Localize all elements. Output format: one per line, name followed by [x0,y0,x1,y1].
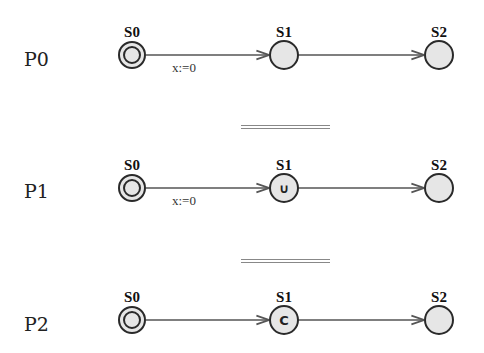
state-label: S2 [431,157,447,173]
state-s2 [425,41,453,69]
automata-diagram: P0 x:=0 S0 S1 S2 P1 x:=0 S0 ∪ S1 S [0,0,484,353]
state-s0-initial [119,42,145,68]
edge-label: x:=0 [172,193,196,208]
state-label: S2 [431,24,447,40]
process-label: P2 [24,313,49,335]
state-s0-initial [119,175,145,201]
committed-marker-icon: C [279,313,289,328]
urgent-marker-icon: ∪ [279,181,290,196]
state-s2 [425,174,453,202]
state-label: S0 [124,24,140,40]
process-label: P1 [24,180,49,202]
state-label: S1 [276,24,292,40]
state-label: S2 [431,289,447,305]
state-label: S1 [276,157,292,173]
edge-label: x:=0 [172,60,196,75]
process-label: P0 [24,48,49,70]
state-label: S0 [124,157,140,173]
state-label: S0 [124,289,140,305]
state-s0-initial [119,307,145,333]
state-label: S1 [276,289,292,305]
equivalence-separator [241,260,330,263]
state-s1 [270,41,298,69]
process-row-p0: P0 x:=0 S0 S1 S2 [24,24,453,75]
process-row-p1: P1 x:=0 S0 ∪ S1 S2 [24,157,453,208]
equivalence-separator [241,126,330,129]
state-s2 [425,306,453,334]
process-row-p2: P2 S0 C S1 S2 [24,289,453,335]
